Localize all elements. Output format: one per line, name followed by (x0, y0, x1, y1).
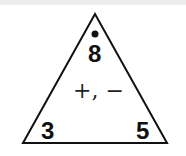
bottom-left-number: 3 (41, 119, 54, 143)
top-number: 8 (88, 42, 101, 66)
bottom-right-number: 5 (136, 119, 149, 143)
top-dot-icon (92, 31, 99, 38)
operations-label: +, − (73, 80, 124, 102)
